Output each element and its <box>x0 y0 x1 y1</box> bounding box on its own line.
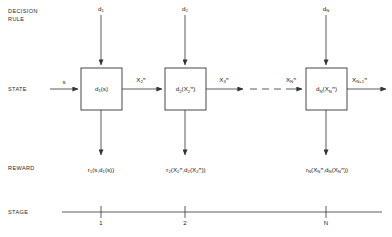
flow-label-xN1: XN+1π <box>352 77 367 85</box>
row-label-state: STATE <box>8 86 27 94</box>
process-box-label-N: dN(XNπ) <box>316 86 337 94</box>
reward-1-arg1: (s,d <box>92 166 102 173</box>
reward-2-paren-close: )) <box>202 166 206 173</box>
decision-rule-sub-2: 2 <box>186 8 188 13</box>
state-input-label-s: s <box>62 79 65 85</box>
row-label-decision-line1: DECISION <box>8 8 38 14</box>
flow-label-xN: XNπ <box>286 77 296 85</box>
decision-rule-label-N: dN <box>323 6 330 13</box>
decision-rule-label-1: d1 <box>98 6 104 13</box>
reward-expression-2: r2(X2π,d2(X2π)) <box>166 167 205 175</box>
row-label-decision-rule: DECISIONRULE <box>8 8 38 23</box>
reward-1-tail: (s)) <box>105 166 114 173</box>
diagram-vector-layer <box>0 0 392 237</box>
stage-tick-label-N: N <box>324 220 328 226</box>
decision-rule-sub-N: N <box>326 8 329 13</box>
stage-tick-label-1: 1 <box>99 220 102 226</box>
row-label-stage: STAGE <box>8 209 28 217</box>
diagram-canvas: DECISIONRULE STATE REWARD STAGE d1 d2 dN… <box>0 0 392 237</box>
decision-rule-sub-1: 1 <box>102 8 104 13</box>
flow-xN1-sup: π <box>364 76 367 81</box>
flow-x2-sup: π <box>143 76 146 81</box>
row-label-decision-line2: RULE <box>8 16 24 22</box>
box-N-paren-close: ) <box>335 85 337 92</box>
flow-label-x3: X3π <box>219 77 229 85</box>
box-1-arg: (s) <box>101 85 108 92</box>
reward-N-paren-close: )) <box>344 166 348 173</box>
box-2-paren-close: ) <box>193 85 195 92</box>
process-box-label-1: d1(s) <box>95 86 108 93</box>
flow-xN-sup: π <box>293 76 296 81</box>
flow-label-x2: X2π <box>136 77 146 85</box>
stage-tick-label-2: 2 <box>183 220 186 226</box>
flow-x3-sup: π <box>226 76 229 81</box>
decision-rule-label-2: d2 <box>182 6 188 13</box>
reward-expression-N: rN(XNπ,dN(XNπ)) <box>306 167 348 175</box>
row-label-reward: REWARD <box>8 165 35 173</box>
reward-expression-1: r1(s,d1(s)) <box>88 167 114 174</box>
process-box-label-2: d2(X2π) <box>176 86 195 94</box>
flow-xN1-sub: N+1 <box>356 79 364 84</box>
